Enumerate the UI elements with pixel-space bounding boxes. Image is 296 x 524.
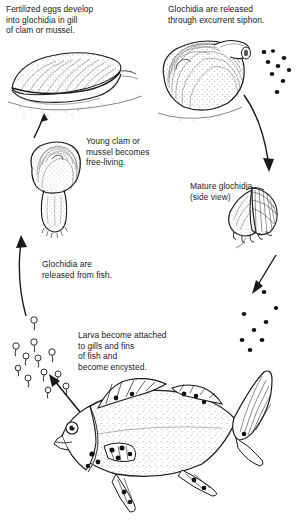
- arrow-siphon-to-glochidium: [240, 92, 278, 178]
- arrow-young-clam-to-adult-clam: [28, 110, 54, 140]
- label-excurrent-siphon: Glochidia are released through excurrent…: [168, 4, 296, 25]
- young-clam-illustration: [26, 138, 88, 240]
- mature-glochidium-illustration: [222, 182, 284, 250]
- arrow-larvae-released-from-fish: [44, 372, 86, 416]
- label-young-clam: Young clam or mussel becomes free-living…: [86, 136, 182, 168]
- arrow-larvae-to-young-clam: [12, 232, 38, 318]
- adult-clam-illustration: [2, 44, 148, 122]
- glochidia-dots-near-fish: [236, 288, 292, 362]
- label-released-from-fish: Glochidia are released from fish.: [42, 259, 152, 280]
- label-fertilized-eggs: Fertilized eggs develop into glochidia i…: [6, 4, 146, 36]
- host-fish-illustration: [52, 362, 296, 522]
- life-cycle-diagram: Fertilized eggs develop into glochidia i…: [0, 0, 296, 524]
